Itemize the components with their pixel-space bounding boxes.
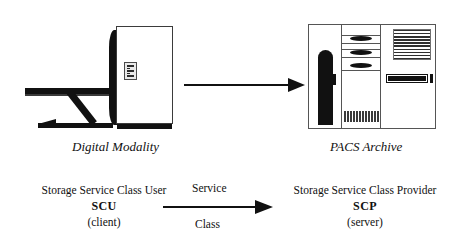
scp-abbreviation: SCP xyxy=(272,198,458,214)
server-bay xyxy=(381,25,435,128)
arrow-shaft xyxy=(184,84,292,86)
table-base xyxy=(38,123,113,128)
scp-role-note: (server) xyxy=(272,214,458,230)
service-class-row: Storage Service Class User SCU (client) … xyxy=(0,178,459,240)
scp-title: Storage Service Class Provider xyxy=(272,182,458,198)
caption-pacs-archive: PACS Archive xyxy=(330,139,402,155)
drive-bay xyxy=(342,25,381,128)
diagram-canvas: Digital Modality PACS Archive Storage Se… xyxy=(0,0,459,240)
right-arrow-icon xyxy=(255,200,273,214)
panel-line xyxy=(127,73,130,75)
service-label: Service xyxy=(192,182,226,194)
panel-line xyxy=(127,75,134,77)
bay-knob xyxy=(332,74,336,85)
drive-slot-line xyxy=(342,43,381,44)
panel-line xyxy=(127,70,134,72)
server-front-bar xyxy=(387,75,427,82)
drive-slot-line xyxy=(342,57,381,58)
scu-title: Storage Service Class User xyxy=(14,182,194,198)
drive-lens xyxy=(350,36,372,41)
transfer-arrow xyxy=(184,78,308,92)
tape-library-bay xyxy=(309,25,342,128)
scp-role-block: Storage Service Class Provider SCP (serv… xyxy=(272,182,458,230)
ventilation-louvers xyxy=(393,29,431,60)
panel-line xyxy=(127,68,130,70)
tape-column xyxy=(318,50,333,125)
caption-digital-modality: Digital Modality xyxy=(72,139,159,155)
drive-lens xyxy=(350,63,372,68)
server-indicator-chip xyxy=(430,74,433,83)
class-label: Class xyxy=(195,218,220,230)
cabinet-foot xyxy=(117,124,172,129)
modality-control-panel xyxy=(124,62,137,80)
service-class-arrow xyxy=(163,200,276,214)
drive-slot-line xyxy=(342,70,381,71)
scu-role-note: (client) xyxy=(14,214,194,230)
drive-lens xyxy=(350,50,372,55)
barcode-strip xyxy=(344,111,379,122)
arrow-shaft xyxy=(163,206,259,208)
panel-line xyxy=(127,65,134,67)
